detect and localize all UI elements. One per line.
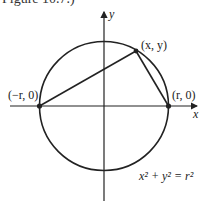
point-left-label: (−r, 0) <box>8 88 38 102</box>
chord-right <box>136 51 169 106</box>
equation-label: x² + y² = r² <box>138 169 194 183</box>
point-top-label: (x, y) <box>141 38 167 52</box>
point-right <box>166 103 171 108</box>
point-top <box>134 49 139 54</box>
x-axis-label: x <box>192 107 199 121</box>
point-left <box>37 103 42 108</box>
circle-diagram: Figure 10.7.) y x (x, y) (−r, 0) (r, 0) … <box>0 0 209 205</box>
chord-left <box>40 51 137 106</box>
diagram-svg: y x (x, y) (−r, 0) (r, 0) x² + y² = r² <box>0 0 209 205</box>
y-axis-label: y <box>108 7 115 21</box>
point-right-label: (r, 0) <box>172 88 196 102</box>
